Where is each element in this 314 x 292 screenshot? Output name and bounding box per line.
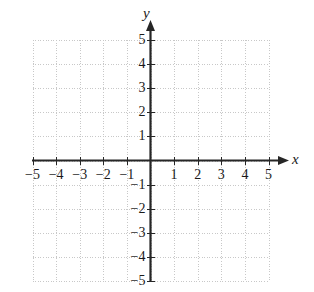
x-axis-label: x (292, 152, 299, 167)
y-tick-label: −3 (127, 226, 146, 240)
y-tick-label: 1 (127, 129, 146, 143)
x-axis-arrowhead (278, 156, 289, 165)
x-tick-label: 3 (212, 168, 230, 182)
x-tick-label: −4 (47, 168, 65, 182)
y-tick-label: 4 (127, 57, 146, 71)
y-axis-arrowhead (146, 20, 155, 31)
y-tick-label: 2 (127, 105, 146, 119)
x-tick-label: 4 (236, 168, 254, 182)
coordinate-plane-figure: −5−4−3−2−112345 54321−1−2−3−4−5 x y (0, 0, 314, 292)
coordinate-plane-svg (0, 0, 314, 292)
y-tick-label: 3 (127, 81, 146, 95)
y-axis-label: y (143, 6, 150, 21)
y-tick-label: −4 (127, 250, 146, 264)
y-tick-label: −2 (127, 202, 146, 216)
x-tick-label: −5 (24, 168, 42, 182)
x-tick-label: 1 (165, 168, 183, 182)
y-tick-label: −1 (127, 178, 146, 192)
x-tick-label: 2 (189, 168, 207, 182)
x-tick-label: −3 (71, 168, 89, 182)
axes (32, 20, 289, 281)
x-tick-label: −2 (94, 168, 112, 182)
y-tick-label: −5 (127, 274, 146, 288)
x-tick-label: 5 (260, 168, 278, 182)
y-tick-label: 5 (127, 33, 146, 47)
